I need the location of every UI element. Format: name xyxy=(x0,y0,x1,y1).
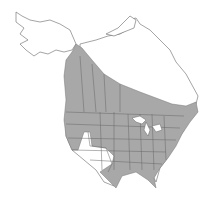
range-map xyxy=(0,0,211,201)
